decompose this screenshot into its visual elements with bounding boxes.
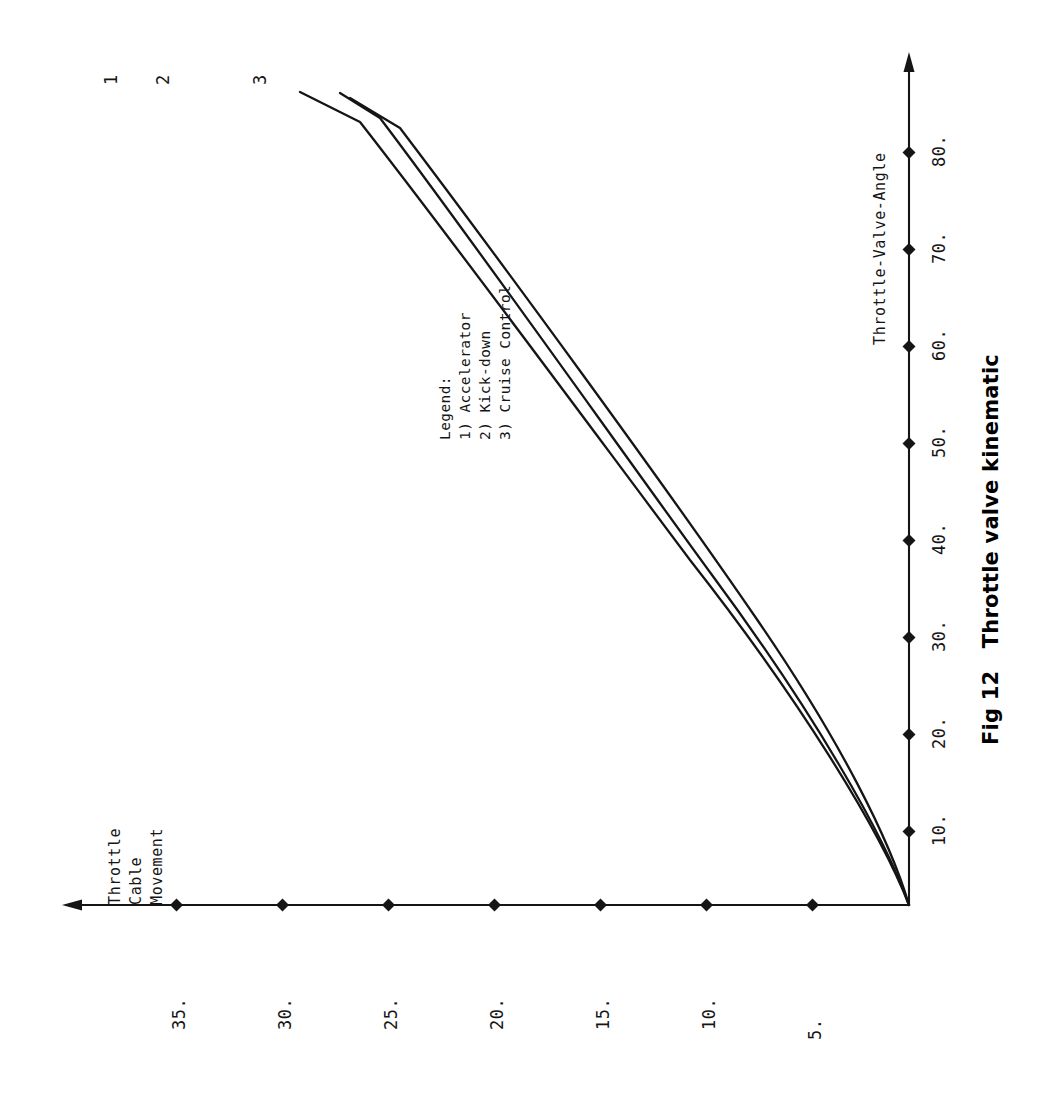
x-tick-60: 60. bbox=[928, 329, 950, 361]
curve-label-2: 2 bbox=[152, 75, 174, 85]
y-axis-title-line-3: Movement bbox=[148, 828, 168, 905]
figure-caption: Fig 12 Throttle valve kinematic bbox=[978, 354, 1006, 745]
y-tick-20: 20. bbox=[486, 998, 508, 1030]
y-tick-35: 35. bbox=[168, 998, 190, 1030]
curve-label-1: 1 bbox=[100, 75, 122, 85]
legend-entry-1: 1) Accelerator bbox=[456, 312, 475, 440]
y-axis-title-line-1: Throttle bbox=[106, 828, 126, 905]
legend-entry-3: 3) Cruise Control bbox=[496, 285, 515, 440]
y-tick-15: 15. bbox=[592, 998, 614, 1030]
y-axis-title-line-2: Cable bbox=[127, 857, 147, 905]
curve-kick-down bbox=[340, 93, 909, 905]
x-tick-50: 50. bbox=[928, 426, 950, 458]
x-tick-70: 70. bbox=[928, 232, 950, 264]
y-axis bbox=[62, 900, 909, 911]
x-axis bbox=[904, 52, 915, 905]
y-tick-10: 10. bbox=[698, 998, 720, 1030]
curve-accelerator bbox=[300, 92, 909, 905]
x-tick-80: 80. bbox=[928, 135, 950, 167]
figure-page: 1 2 3 Legend: 1) Accelerator 2) Kick-dow… bbox=[0, 0, 1045, 1099]
curve-label-3: 3 bbox=[249, 75, 271, 85]
legend-title: Legend: bbox=[436, 376, 455, 440]
x-tick-20: 20. bbox=[928, 717, 950, 749]
x-tick-10: 10. bbox=[928, 814, 950, 846]
x-tick-40: 40. bbox=[928, 523, 950, 555]
x-tick-30: 30. bbox=[928, 620, 950, 652]
y-tick-25: 25. bbox=[380, 998, 402, 1030]
legend-entry-2: 2) Kick-down bbox=[476, 330, 495, 440]
x-axis-title: Throttle-Valve-Angle bbox=[871, 152, 891, 345]
y-tick-30: 30. bbox=[274, 998, 296, 1030]
y-tick-5: 5. bbox=[804, 1019, 826, 1040]
